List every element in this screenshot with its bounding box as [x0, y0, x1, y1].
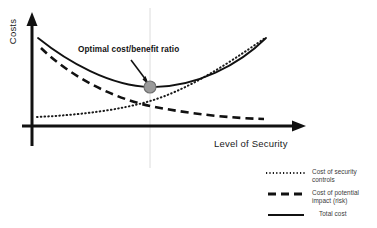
- legend-label-cost-of-security-controls: Cost of security controls: [312, 167, 357, 183]
- x-axis-label: Level of Security: [214, 138, 288, 149]
- chart-legend: Cost of security controls Cost of potent…: [266, 167, 377, 228]
- optimal-ratio-annotation-label: Optimal cost/benefit ratio: [78, 45, 179, 54]
- dashed-line-icon: [266, 188, 306, 200]
- optimal-cost-benefit-point: [144, 81, 156, 93]
- solid-line-icon: [266, 209, 306, 221]
- y-axis-label: Costs: [7, 10, 18, 54]
- annotation-arrow-line: [131, 60, 146, 80]
- legend-label-total-cost: Total cost: [312, 209, 347, 218]
- legend-label-cost-of-potential-impact: Cost of potential impact (risk): [312, 188, 359, 204]
- x-axis-arrowhead: [292, 121, 306, 132]
- y-axis-arrowhead: [27, 12, 38, 26]
- cost-benefit-chart-figure: Costs Level of Security Optimal cost/ben…: [0, 0, 377, 228]
- dotted-line-icon: [266, 167, 306, 179]
- legend-item-cost-of-potential-impact: Cost of potential impact (risk): [266, 188, 377, 204]
- legend-item-cost-of-security-controls: Cost of security controls: [266, 167, 377, 183]
- legend-item-total-cost: Total cost: [266, 209, 377, 224]
